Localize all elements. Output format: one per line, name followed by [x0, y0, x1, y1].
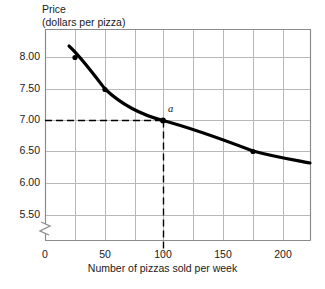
y-tick-label-8.00: 8.00	[2, 51, 40, 62]
plot-background	[45, 29, 310, 240]
x-axis-title: Number of pizzas sold per week	[0, 262, 325, 275]
data-point-175-6.50	[250, 149, 255, 154]
x-tick-label-150: 150	[203, 249, 243, 260]
x-tick-label-200: 200	[263, 249, 303, 260]
y-tick-label-7.00: 7.00	[2, 114, 40, 125]
x-tick-label-0: 0	[25, 249, 65, 260]
data-point-100-7.00	[160, 118, 166, 124]
x-tick-label-100: 100	[143, 249, 183, 260]
y-tick-label-5.50: 5.50	[2, 209, 40, 220]
x-tick-label-50: 50	[85, 249, 125, 260]
pizza-demand-curve-chart: Price (dollars per pizza)	[0, 0, 325, 289]
plot-canvas	[0, 0, 325, 289]
point-a-label: a	[168, 103, 173, 114]
data-point-50-7.50	[102, 87, 107, 92]
data-point-25-8.00	[72, 55, 77, 60]
y-tick-label-7.50: 7.50	[2, 83, 40, 94]
y-tick-label-6.50: 6.50	[2, 145, 40, 156]
y-tick-label-6.00: 6.00	[2, 177, 40, 188]
